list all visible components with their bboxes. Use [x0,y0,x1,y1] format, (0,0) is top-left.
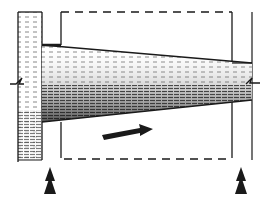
wall [18,12,42,162]
diagram-canvas: tapered beam projecting from a hatched w… [0,0,266,205]
left-support-arrow-icon [44,167,56,194]
right-support-arrow-icon [235,167,247,194]
beam-sketch [0,0,266,205]
tapered-beam [42,45,252,122]
direction-arrow-icon [102,124,153,140]
